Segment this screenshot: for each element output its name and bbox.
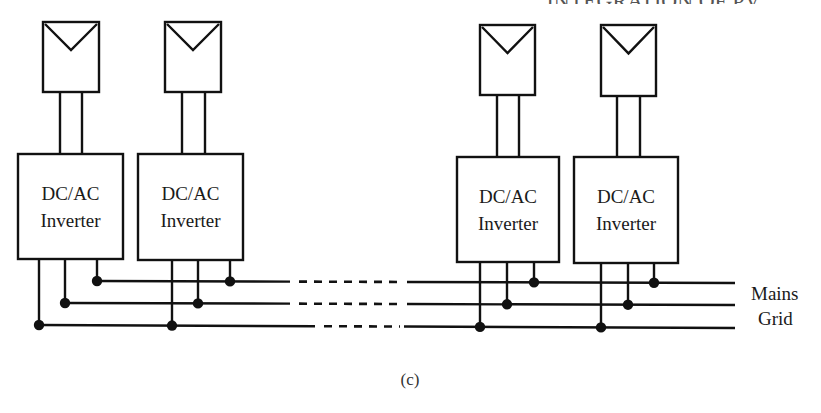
bus-solid-left	[97, 281, 290, 282]
junction-dot	[34, 320, 44, 330]
inverter-box: DC/ACInverter	[457, 157, 559, 262]
inverter-label-line1: DC/AC	[479, 186, 537, 207]
junction-dot	[623, 299, 633, 309]
junction-dot	[502, 299, 512, 309]
pv-unit-1: DC/ACInverter	[18, 22, 123, 330]
pv-panel-icon	[43, 22, 99, 92]
pv-units: DC/ACInverterDC/ACInverterDC/ACInverterD…	[18, 22, 678, 333]
inverter-label-line1: DC/AC	[41, 183, 99, 204]
inverter-label-line1: DC/AC	[161, 183, 219, 204]
pv-unit-2: DC/ACInverter	[138, 22, 243, 331]
junction-dot	[225, 276, 235, 286]
bus-solid-left	[65, 303, 290, 304]
bus-line-phase-2	[65, 303, 735, 305]
pv-panel-icon	[480, 25, 535, 95]
pv-microinverter-diagram: DC/ACInverterDC/ACInverterDC/ACInverterD…	[0, 0, 821, 413]
bus-solid-right	[404, 327, 735, 328]
junction-dot	[167, 320, 177, 330]
junction-dot	[529, 277, 539, 287]
figure-caption: (c)	[401, 370, 420, 389]
bus-line-phase-1	[97, 281, 735, 283]
inverter-box: DC/ACInverter	[574, 157, 678, 263]
pv-panel-icon	[601, 25, 656, 96]
bus-line-phase-3	[39, 325, 735, 328]
inverter-label-line2: Inverter	[40, 210, 101, 231]
inverter-box: DC/ACInverter	[138, 154, 243, 260]
junction-dot	[193, 298, 203, 308]
junction-dot	[596, 322, 606, 332]
pv-unit-3: DC/ACInverter	[457, 25, 559, 332]
bus-solid-right	[407, 304, 735, 305]
inverter-label-line2: Inverter	[160, 210, 221, 231]
junction-dot	[92, 276, 102, 286]
bus-solid-right	[407, 282, 735, 283]
junction-dot	[475, 322, 485, 332]
pv-panel-icon	[165, 22, 221, 92]
grid-label: Grid	[758, 308, 793, 329]
mains-label: Mains	[751, 283, 799, 304]
inverter-label-line2: Inverter	[596, 213, 657, 234]
inverter-label-line2: Inverter	[478, 213, 539, 234]
junction-dot	[649, 278, 659, 288]
labels: Mains Grid (c)	[401, 283, 799, 389]
inverter-label-line1: DC/AC	[597, 186, 655, 207]
inverter-box: DC/ACInverter	[18, 154, 123, 259]
junction-dot	[60, 298, 70, 308]
pv-unit-4: DC/ACInverter	[574, 25, 678, 333]
